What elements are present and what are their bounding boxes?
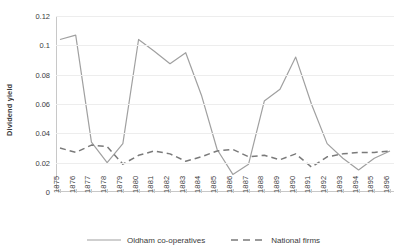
y-tick-label: 0.08	[35, 70, 50, 79]
y-axis-title: Dividend yield	[2, 60, 16, 160]
x-tick-label: 1896	[382, 176, 391, 194]
legend-swatch-icon	[87, 236, 121, 244]
x-tick-label: 1875	[52, 176, 61, 194]
y-tick-label: 0.1	[40, 41, 50, 50]
x-tick-label: 1883	[177, 176, 186, 194]
gridline	[56, 45, 394, 46]
legend-label: Oldham co-operatives	[127, 236, 205, 245]
x-tick-label: 1877	[83, 176, 92, 194]
x-tick-label: 1881	[146, 176, 155, 194]
legend-swatch-icon	[231, 236, 265, 244]
plot-area	[56, 16, 394, 192]
x-tick-label: 1887	[240, 176, 249, 194]
legend-label: National firms	[271, 236, 320, 245]
x-tick-label: 1876	[67, 176, 76, 194]
x-tick-label: 1886	[224, 176, 233, 194]
x-tick-mark	[91, 189, 92, 193]
x-tick-mark	[311, 189, 312, 193]
x-tick-label: 1878	[99, 176, 108, 194]
gridline	[56, 163, 394, 164]
y-tick-label: 0.02	[35, 158, 50, 167]
dividend-yield-line-chart: Dividend yield 0.120.10.080.060.040.020 …	[0, 0, 407, 252]
y-tick-label: 0	[46, 188, 50, 197]
x-tick-label: 1880	[130, 176, 139, 194]
x-tick-label: 1892	[319, 176, 328, 194]
y-tick-label: 0.12	[35, 12, 50, 21]
x-tick-label: 1890	[287, 176, 296, 194]
x-tick-label: 1885	[209, 176, 218, 194]
x-tick-label: 1888	[256, 176, 265, 194]
legend-item[interactable]: National firms	[231, 236, 320, 245]
x-tick-mark	[201, 189, 202, 193]
y-axis-tick-labels: 0.120.10.080.060.040.020	[18, 0, 52, 252]
x-tick-label: 1884	[193, 176, 202, 194]
gridline	[56, 16, 394, 17]
gridline	[56, 104, 394, 105]
gridline	[56, 75, 394, 76]
x-tick-label: 1889	[272, 176, 281, 194]
x-tick-label: 1895	[366, 176, 375, 194]
x-tick-label: 1879	[114, 176, 123, 194]
x-tick-label: 1893	[334, 176, 343, 194]
gridline	[56, 133, 394, 134]
y-tick-label: 0.04	[35, 129, 50, 138]
x-axis-tick-labels: 1875187618771878187918801881188218831884…	[56, 193, 394, 233]
x-tick-label: 1882	[162, 176, 171, 194]
chart-legend: Oldham co-operativesNational firms	[0, 231, 407, 249]
x-tick-label: 1891	[303, 176, 312, 194]
x-tick-label: 1894	[350, 176, 359, 194]
y-tick-label: 0.06	[35, 100, 50, 109]
legend-item[interactable]: Oldham co-operatives	[87, 236, 205, 245]
